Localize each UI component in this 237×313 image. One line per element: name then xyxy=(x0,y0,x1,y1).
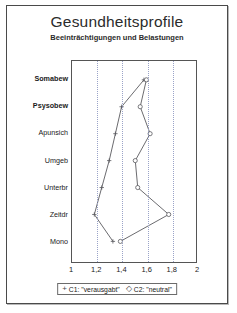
legend-marker-icon: ◇ xyxy=(126,285,132,293)
data-point-marker-plus xyxy=(100,185,104,189)
gridline xyxy=(122,61,123,262)
y-axis-tick-label: Apunsich xyxy=(8,128,68,137)
gridline xyxy=(97,61,98,262)
x-axis-tick-label: 2 xyxy=(195,265,199,274)
x-axis-tick-label: 1,8 xyxy=(167,265,177,274)
series-line-2 xyxy=(120,80,168,242)
legend-label: C1: "verausgabt" xyxy=(69,286,120,293)
x-axis-tick-label: 1,2 xyxy=(91,265,101,274)
y-axis-tick-label: Mono xyxy=(8,237,68,246)
data-point-marker-diamond xyxy=(136,185,140,189)
page-subtitle: Beeinträchtigungen und Belastungen xyxy=(7,33,227,42)
plot-area xyxy=(71,60,197,263)
x-axis-tick-label: 1,4 xyxy=(116,265,126,274)
legend-marker-icon: + xyxy=(62,285,67,293)
y-axis-tick-label: Psysobew xyxy=(8,101,68,110)
legend-entry-1: +C1: "verausgabt" xyxy=(62,285,120,293)
y-axis-tick-label: Zeitdr xyxy=(8,210,68,219)
gridline xyxy=(173,61,174,262)
y-axis-tick-label: Umgeb xyxy=(8,156,68,165)
legend-entry-2: ◇C2: "neutral" xyxy=(126,285,172,293)
x-axis-tick-label: 1,6 xyxy=(141,265,151,274)
gridline xyxy=(148,61,149,262)
x-axis-labels: 11,21,41,61,82 xyxy=(71,265,197,277)
y-axis-labels: SomabewPsysobewApunsichUmgebUnterbrZeitd… xyxy=(7,60,68,263)
data-point-marker-diamond xyxy=(138,105,142,109)
data-point-marker-plus xyxy=(107,158,111,162)
series-svg xyxy=(72,61,196,262)
page-title: Gesundheitsprofile xyxy=(7,13,227,31)
data-point-marker-diamond xyxy=(133,159,137,163)
data-point-marker-diamond xyxy=(148,132,152,136)
data-point-marker-plus xyxy=(113,131,117,135)
y-axis-tick-label: Unterbr xyxy=(8,183,68,192)
chart-card: Gesundheitsprofile Beeinträchtigungen un… xyxy=(6,5,228,304)
chart-legend: +C1: "verausgabt"◇C2: "neutral" xyxy=(57,283,177,295)
legend-label: C2: "neutral" xyxy=(134,286,172,293)
y-axis-tick-label: Somabew xyxy=(8,74,68,83)
x-axis-tick-label: 1 xyxy=(69,265,73,274)
data-point-marker-diamond xyxy=(167,212,171,216)
